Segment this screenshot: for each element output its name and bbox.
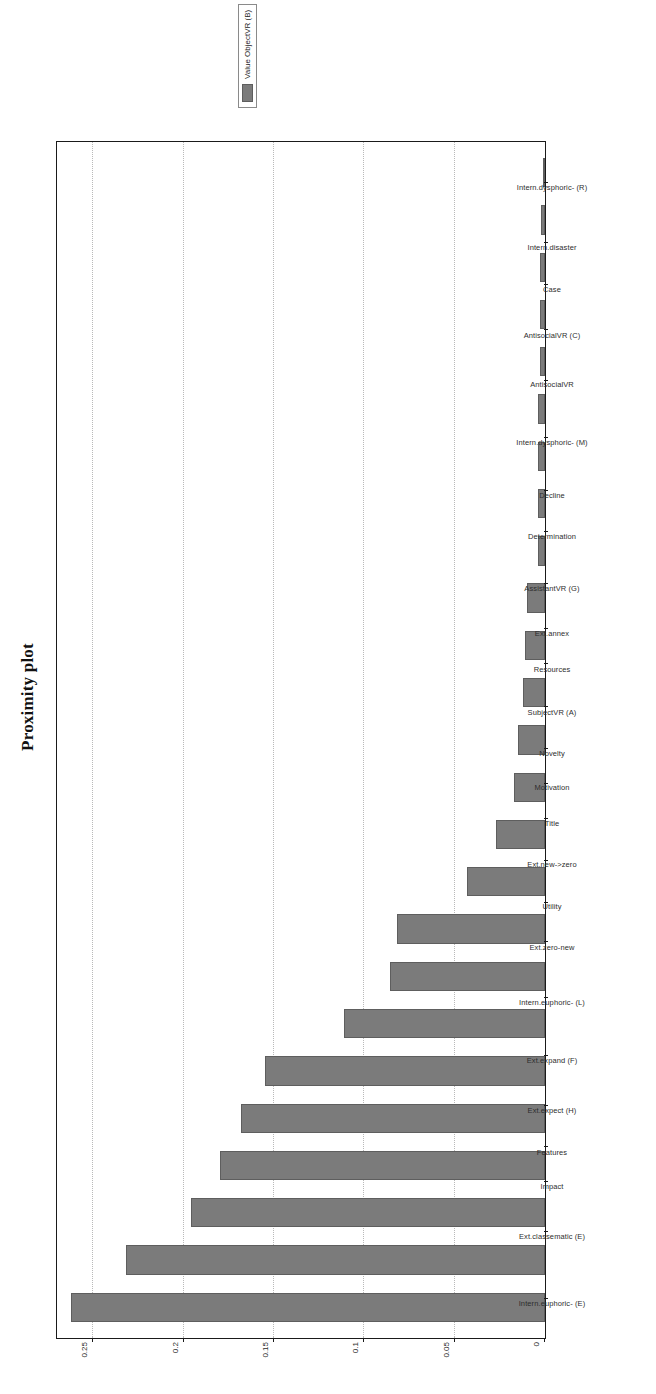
bar[interactable] (397, 914, 545, 943)
category-slot: Utility (548, 885, 648, 920)
chart-page: Proximity plot 00.050.10.150.20.25 Inter… (0, 0, 656, 1394)
category-axis-label: AntisocialVR (C) (524, 330, 581, 339)
category-axis-label: Intern.disaster (527, 243, 576, 252)
category-axis-label: Features (537, 1147, 567, 1156)
bar[interactable] (191, 1198, 545, 1227)
value-axis-tick-label: 0.05 (441, 1342, 450, 1372)
category-slot: Intern.disaster (548, 218, 648, 267)
category-axis-label: Determination (528, 532, 576, 541)
value-axis-tick (454, 1338, 455, 1342)
category-slot: Intern.euphoric- (L) (548, 965, 648, 1031)
bar-slot (57, 149, 545, 196)
category-axis-label: Ext.zero-new (530, 942, 575, 951)
value-axis-tick-label: 0.25 (80, 1342, 89, 1372)
bar[interactable] (540, 347, 545, 376)
category-slot: Intern.dysphoric- (M) (548, 402, 648, 473)
bar-slot (57, 1142, 545, 1189)
bar-slot (57, 1047, 545, 1094)
bar-slot (57, 1000, 545, 1047)
bar-slot (57, 244, 545, 291)
bar[interactable] (344, 1009, 545, 1038)
bar-slot (57, 1284, 545, 1331)
category-axis-label: AntisocialVR (530, 381, 574, 390)
value-axis-tick (363, 1338, 364, 1342)
legend: Value ObjectVR (B) (238, 4, 257, 108)
bar[interactable] (220, 1151, 545, 1180)
category-axis-label: AssistantVR (G) (524, 584, 579, 593)
category-axis-label: Impact (540, 1182, 563, 1191)
category-slot: Case (548, 268, 648, 303)
plot-area: 00.050.10.150.20.25 (56, 141, 546, 1339)
bar[interactable] (541, 205, 545, 234)
category-axis-label: Intern.euphoric- (L) (519, 998, 585, 1007)
category-axis-label: Utility (542, 903, 561, 912)
bar-slot (57, 953, 545, 1000)
bar-slot (57, 622, 545, 669)
value-axis-tick (544, 1338, 545, 1342)
category-slot: Motivation (548, 766, 648, 801)
category-slot: Ext.classematic (E) (548, 1199, 648, 1265)
bar[interactable] (538, 394, 545, 423)
category-slot: Determination (548, 508, 648, 556)
legend-label: Value ObjectVR (B) (243, 10, 252, 79)
bar-slot (57, 905, 545, 952)
bar-slot (57, 338, 545, 385)
category-slot: AntisocialVR (548, 359, 648, 403)
category-axis-label: Ext.expand (F) (527, 1056, 578, 1065)
category-axis-label: Title (545, 819, 559, 828)
bar-slot (57, 291, 545, 338)
bar-slot (57, 1189, 545, 1236)
category-slot: Ext.new->zero (548, 836, 648, 885)
bar[interactable] (540, 253, 545, 282)
category-axis-label: Ext.annex (535, 629, 569, 638)
bar[interactable] (265, 1056, 545, 1085)
category-slot: SubjectVR (A) (548, 683, 648, 732)
bar-slot (57, 527, 545, 574)
bar[interactable] (390, 962, 545, 991)
category-slot: Features (548, 1130, 648, 1165)
category-slot: Intern.dysphoric- (R) (548, 148, 648, 218)
category-slot: Novelty (548, 732, 648, 767)
category-slot: Title (548, 801, 648, 836)
category-axis-label: Ext.expect (H) (528, 1106, 577, 1115)
category-axis-label: Case (543, 285, 561, 294)
category-axis-label: Decline (539, 491, 565, 500)
bar[interactable] (71, 1293, 545, 1322)
bar[interactable] (467, 867, 545, 896)
category-slot: Ext.expect (H) (548, 1081, 648, 1130)
bar-slot (57, 716, 545, 763)
category-axis-label: Ext.new->zero (527, 861, 576, 870)
category-axis-label: Ext.classematic (E) (519, 1232, 585, 1241)
category-slot: Ext.expand (F) (548, 1031, 648, 1082)
bar[interactable] (241, 1104, 545, 1133)
category-axis: Intern.euphoric- (E)Ext.classematic (E)I… (548, 141, 648, 1339)
category-axis-label: SubjectVR (A) (528, 707, 577, 716)
value-axis-tick (273, 1338, 274, 1342)
value-axis-tick (92, 1338, 93, 1342)
value-axis-tick-label: 0 (532, 1342, 541, 1372)
bar[interactable] (523, 678, 545, 707)
bar[interactable] (540, 300, 545, 329)
category-axis-label: Intern.dysphoric- (R) (517, 183, 587, 192)
category-slot: Resources (548, 646, 648, 683)
bar-slot (57, 196, 545, 243)
category-axis-label: Intern.euphoric- (E) (519, 1299, 586, 1308)
bar-slot (57, 433, 545, 480)
category-slot: AssistantVR (G) (548, 556, 648, 611)
bar-slot (57, 811, 545, 858)
bar-slot (57, 1236, 545, 1283)
category-axis-label: Novelty (539, 749, 565, 758)
bar-slot (57, 1095, 545, 1142)
bar-slot (57, 480, 545, 527)
bar-slot (57, 858, 545, 905)
bar[interactable] (496, 820, 545, 849)
category-slot: Ext.annex (548, 612, 648, 647)
bar[interactable] (126, 1245, 545, 1274)
value-axis-tick-label: 0.2 (170, 1342, 179, 1372)
legend-swatch-value-objectvr (242, 84, 253, 102)
rotated-figure-wrapper: Proximity plot 00.050.10.150.20.25 Inter… (0, 0, 656, 1394)
bar-slot (57, 764, 545, 811)
category-slot: Intern.euphoric- (E) (548, 1265, 648, 1332)
chart-figure: Proximity plot 00.050.10.150.20.25 Inter… (0, 0, 656, 1394)
value-axis-tick-label: 0.1 (351, 1342, 360, 1372)
